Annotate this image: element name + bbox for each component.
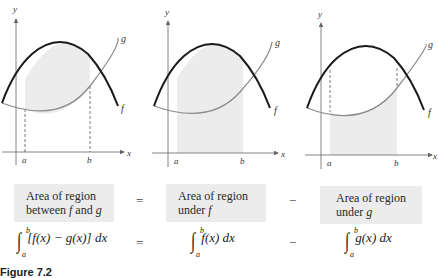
integral-sign: ∫ bbox=[191, 228, 195, 254]
integrand-g: g(x) dx bbox=[355, 230, 391, 245]
upper-limit: b bbox=[26, 226, 30, 235]
tick-label-a: a bbox=[327, 158, 332, 168]
lower-limit: a bbox=[22, 250, 26, 259]
curve-label-g: g bbox=[121, 33, 126, 44]
box-line-1: Area of region bbox=[336, 191, 414, 205]
box-line-2: under g bbox=[336, 205, 414, 219]
curve-label-f: f bbox=[274, 105, 278, 116]
tick-label-a: a bbox=[174, 156, 179, 166]
curve-g bbox=[307, 44, 426, 116]
integral-sign: ∫ bbox=[17, 228, 21, 254]
box-area-between: Area of region between f and g bbox=[14, 184, 114, 222]
box-line-1: Area of region bbox=[26, 189, 106, 203]
plot-under-f: y x a b g f bbox=[152, 7, 285, 167]
x-axis-label: x bbox=[126, 148, 131, 158]
equals-sign: = bbox=[136, 193, 143, 209]
curve-label-g: g bbox=[275, 37, 280, 48]
box-line-2: between f and g bbox=[26, 203, 106, 217]
lower-limit: a bbox=[350, 250, 354, 259]
y-axis-label: y bbox=[164, 7, 169, 17]
integral-g: ∫ b a g(x) dx bbox=[344, 228, 392, 254]
integrand-f: f(x) dx bbox=[201, 230, 235, 245]
curve-label-f: f bbox=[428, 107, 432, 118]
tick-label-b: b bbox=[87, 155, 92, 165]
box-area-under-f: Area of region under f bbox=[166, 184, 266, 222]
y-axis-label: y bbox=[317, 9, 322, 19]
curve-label-f: f bbox=[121, 103, 125, 114]
shaded-region-between bbox=[25, 43, 90, 114]
minus-sign: − bbox=[289, 193, 296, 209]
minus-sign-integrals: − bbox=[289, 235, 296, 251]
curve-label-g: g bbox=[428, 39, 433, 50]
figure-plots: y x a b g f y x a b g f y x a b g f bbox=[0, 0, 438, 190]
y-axis-label: y bbox=[12, 4, 17, 14]
shaded-region-under-g bbox=[330, 88, 397, 155]
box-line-2: under f bbox=[178, 203, 258, 217]
tick-label-a: a bbox=[22, 155, 27, 165]
upper-limit: b bbox=[354, 226, 358, 235]
integral-difference: ∫ b a [f(x) − g(x)] dx bbox=[16, 228, 107, 254]
curve-f bbox=[307, 46, 424, 110]
equals-sign-integrals: = bbox=[136, 235, 143, 251]
tick-label-b: b bbox=[394, 158, 399, 168]
tick-label-b: b bbox=[240, 156, 245, 166]
integrand-difference: [f(x) − g(x)] dx bbox=[27, 230, 107, 245]
plot-between-f-and-g: y x a b g f bbox=[2, 4, 131, 165]
integral-f: ∫ b a f(x) dx bbox=[190, 228, 235, 254]
plot-under-g: y x a b g f bbox=[305, 9, 437, 169]
x-axis-label: x bbox=[280, 149, 285, 159]
integral-sign: ∫ bbox=[345, 228, 349, 254]
box-line-1: Area of region bbox=[178, 189, 258, 203]
lower-limit: a bbox=[196, 250, 200, 259]
box-area-under-g: Area of region under g bbox=[320, 186, 422, 224]
figure-caption: Figure 7.2 bbox=[0, 266, 52, 278]
x-axis-label: x bbox=[432, 151, 437, 161]
upper-limit: b bbox=[200, 226, 204, 235]
